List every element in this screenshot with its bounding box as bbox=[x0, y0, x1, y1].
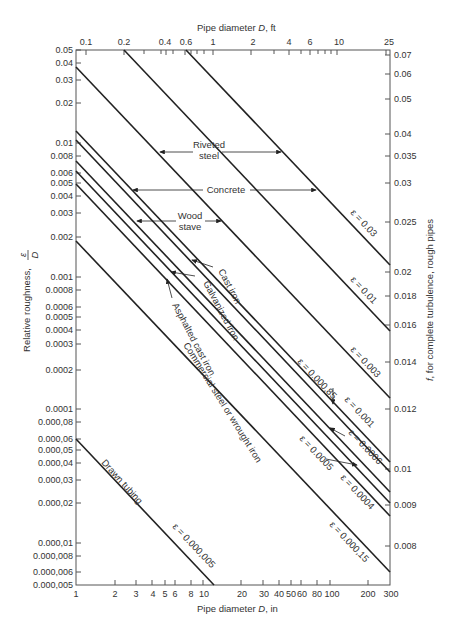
plot-frame bbox=[76, 50, 390, 585]
right-tick: 0.012 bbox=[394, 404, 417, 414]
label-eps-0.001: ε = 0.001 bbox=[343, 394, 378, 430]
left-tick: 0.000,01 bbox=[38, 538, 73, 548]
concrete-label: Concrete bbox=[207, 184, 246, 195]
right-tick: 0.009 bbox=[394, 500, 417, 510]
top-tick: 1 bbox=[210, 37, 215, 47]
right-tick: 0.014 bbox=[394, 357, 417, 367]
right-axis-title: f, for complete turbulence, rough pipes bbox=[424, 219, 435, 381]
right-tick: 0.07 bbox=[394, 50, 412, 60]
right-tick: 0.02 bbox=[394, 267, 412, 277]
bottom-tick: 6 bbox=[172, 589, 177, 599]
label-eps-0.03: ε = 0.03 bbox=[349, 207, 380, 239]
wood-stave-label: Wood bbox=[178, 210, 203, 221]
bottom-tick: 3 bbox=[133, 589, 138, 599]
left-tick: 0.008 bbox=[50, 151, 73, 161]
left-tick: 0.000,06 bbox=[38, 434, 73, 444]
wood-stave-label-2: stave bbox=[179, 221, 202, 232]
commercial-steel-label: Commercial steel or wrought iron bbox=[181, 340, 264, 464]
bottom-tick: 80 bbox=[312, 589, 322, 599]
left-tick: 0.000,03 bbox=[38, 475, 73, 485]
bottom-tick: 10 bbox=[199, 589, 209, 599]
roughness-lines bbox=[76, 50, 390, 585]
top-tick: 10 bbox=[334, 37, 344, 47]
left-tick: 0.000,006 bbox=[33, 567, 73, 577]
left-tick: 0.0003 bbox=[45, 339, 73, 349]
bottom-tick: 200 bbox=[360, 589, 375, 599]
label-eps-0.000005: ε = 0.000,005 bbox=[171, 521, 218, 570]
left-tick: 0.0004 bbox=[45, 325, 73, 335]
top-tick: 0.1 bbox=[80, 37, 93, 47]
left-axis bbox=[76, 50, 81, 572]
bottom-axis bbox=[115, 580, 368, 585]
left-tick: 0.01 bbox=[55, 138, 73, 148]
relative-roughness-chart: 0.1 0.2 0.4 0.6 1 2 4 6 10 25 Pipe diame… bbox=[0, 0, 454, 626]
bottom-tick: 40 bbox=[274, 589, 284, 599]
material-annotations: Riveted steel Concrete Wood stave Cast i… bbox=[100, 139, 265, 506]
left-tick: 0.002 bbox=[50, 232, 73, 242]
epsilon-labels: ε = 0.03 ε = 0.01 ε = 0.003 ε = 0.001 ε … bbox=[171, 207, 385, 570]
bottom-tick: 8 bbox=[188, 589, 193, 599]
bottom-axis-labels: 1 2 3 4 5 6 8 10 20 30 40 50 60 80 100 2… bbox=[73, 589, 398, 599]
top-tick: 4 bbox=[286, 37, 291, 47]
left-tick: 0.03 bbox=[55, 75, 73, 85]
right-tick: 0.025 bbox=[394, 217, 417, 227]
drawn-tubing-label: Drawn tubing bbox=[100, 457, 146, 506]
left-tick: 0.000,05 bbox=[38, 445, 73, 455]
label-eps-0.0004: ε = 0.0004 bbox=[339, 472, 377, 512]
right-tick: 0.01 bbox=[394, 464, 412, 474]
left-tick: 0.003 bbox=[50, 208, 73, 218]
bottom-axis-title: Pipe diameter D, in bbox=[197, 603, 278, 614]
right-tick: 0.035 bbox=[394, 151, 417, 161]
top-tick: 0.4 bbox=[159, 37, 172, 47]
right-tick: 0.018 bbox=[394, 291, 417, 301]
label-eps-0.0006: ε = 0.0006 bbox=[347, 427, 385, 467]
left-tick: 0.005 bbox=[50, 178, 73, 188]
left-tick: 0.0001 bbox=[45, 404, 73, 414]
right-tick: 0.06 bbox=[394, 69, 412, 79]
left-tick: 0.004 bbox=[50, 191, 73, 201]
label-eps-0.003: ε = 0.003 bbox=[349, 344, 384, 380]
left-tick: 0.000,02 bbox=[38, 498, 73, 508]
right-axis-labels: 0.07 0.06 0.05 0.04 0.035 0.03 0.025 0.0… bbox=[394, 50, 417, 551]
svg-text:Relative roughness,: Relative roughness, bbox=[21, 268, 32, 352]
left-tick: 0.0002 bbox=[45, 365, 73, 375]
left-axis-title: Relative roughness, ε D bbox=[17, 250, 40, 352]
left-axis-labels: 0.05 0.04 0.03 0.02 0.01 0.008 0.006 0.0… bbox=[33, 45, 73, 590]
bottom-tick: 30 bbox=[259, 589, 269, 599]
line-eps-0.0004 bbox=[76, 184, 390, 516]
bottom-tick: 50 bbox=[286, 589, 296, 599]
riveted-steel-label-2: steel bbox=[199, 150, 219, 161]
left-tick: 0.001 bbox=[50, 272, 73, 282]
left-tick: 0.0008 bbox=[45, 285, 73, 295]
top-axis bbox=[86, 50, 386, 55]
left-tick: 0.05 bbox=[55, 45, 73, 55]
bottom-tick: 5 bbox=[162, 589, 167, 599]
label-eps-0.01: ε = 0.01 bbox=[349, 274, 380, 306]
label-eps-0.00015: ε = 0.000,15 bbox=[328, 519, 372, 564]
left-tick: 0.000,008 bbox=[33, 551, 73, 561]
line-eps-0.01 bbox=[124, 50, 390, 331]
left-tick: 0.04 bbox=[55, 58, 73, 68]
left-tick: 0.02 bbox=[55, 98, 73, 108]
top-axis-labels: 0.1 0.2 0.4 0.6 1 2 4 6 10 25 bbox=[80, 37, 394, 47]
left-tick: 0.000,04 bbox=[38, 458, 73, 468]
right-tick: 0.04 bbox=[394, 129, 412, 139]
top-tick: 0.6 bbox=[180, 37, 193, 47]
top-axis-title: Pipe diameter D, ft bbox=[197, 22, 276, 33]
bottom-tick: 1 bbox=[73, 589, 78, 599]
svg-text:f, for complete turbulence, ro: f, for complete turbulence, rough pipes bbox=[424, 219, 435, 381]
bottom-tick: 60 bbox=[297, 589, 307, 599]
right-tick: 0.016 bbox=[394, 320, 417, 330]
bottom-tick: 100 bbox=[324, 589, 339, 599]
top-tick: 25 bbox=[384, 37, 394, 47]
left-tick: 0.0005 bbox=[45, 312, 73, 322]
bottom-tick: 2 bbox=[112, 589, 117, 599]
top-tick: 2 bbox=[250, 37, 255, 47]
top-tick: 6 bbox=[307, 37, 312, 47]
left-tick: 0.000,005 bbox=[33, 580, 73, 590]
left-tick: 0.0006 bbox=[45, 302, 73, 312]
bottom-tick: 4 bbox=[150, 589, 155, 599]
right-tick: 0.03 bbox=[394, 178, 412, 188]
bottom-tick: 20 bbox=[237, 589, 247, 599]
svg-text:ε: ε bbox=[17, 252, 28, 257]
